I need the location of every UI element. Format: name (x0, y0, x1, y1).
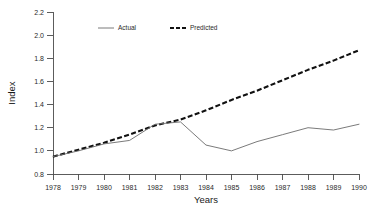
x-tick-label: 1981 (122, 184, 138, 191)
y-tick-label: 0.8 (34, 171, 44, 178)
line-chart: 0.81.01.21.41.61.82.02.2 Index 197819791… (0, 0, 376, 210)
y-tick-label: 2.0 (34, 32, 44, 39)
y-axis-ticks (47, 12, 53, 174)
x-tick-label: 1978 (45, 184, 61, 191)
chart-legend: ActualPredicted (98, 24, 218, 31)
x-tick-label: 1982 (147, 184, 163, 191)
x-tick-label: 1985 (224, 184, 240, 191)
legend-label-predicted: Predicted (190, 24, 218, 31)
x-axis-title: Years (194, 194, 218, 205)
y-tick-label: 1.6 (34, 78, 44, 85)
x-tick-label: 1990 (351, 184, 367, 191)
x-axis-ticks (53, 174, 359, 180)
x-tick-label: 1988 (300, 184, 316, 191)
y-axis-tick-labels: 0.81.01.21.41.61.82.02.2 (34, 9, 44, 178)
y-tick-label: 1.2 (34, 124, 44, 131)
x-tick-label: 1984 (198, 184, 214, 191)
x-axis-tick-labels: 1978197919801981198219831984198519861987… (45, 184, 367, 191)
y-axis-title: Index (6, 81, 17, 104)
x-axis: 1978197919801981198219831984198519861987… (45, 174, 367, 205)
y-tick-label: 1.4 (34, 101, 44, 108)
data-series-group (53, 50, 359, 156)
x-tick-label: 1983 (173, 184, 189, 191)
series-line-actual (53, 122, 359, 157)
x-tick-label: 1980 (96, 184, 112, 191)
y-axis: 0.81.01.21.41.61.82.02.2 Index (6, 9, 53, 178)
x-tick-label: 1987 (275, 184, 291, 191)
x-tick-label: 1989 (326, 184, 342, 191)
y-tick-label: 2.2 (34, 9, 44, 16)
series-line-predicted (53, 50, 359, 156)
x-tick-label: 1986 (249, 184, 265, 191)
chart-page: 0.81.01.21.41.61.82.02.2 Index 197819791… (0, 0, 376, 210)
y-tick-label: 1.0 (34, 147, 44, 154)
x-tick-label: 1979 (71, 184, 87, 191)
legend-label-actual: Actual (118, 24, 137, 31)
y-tick-label: 1.8 (34, 55, 44, 62)
